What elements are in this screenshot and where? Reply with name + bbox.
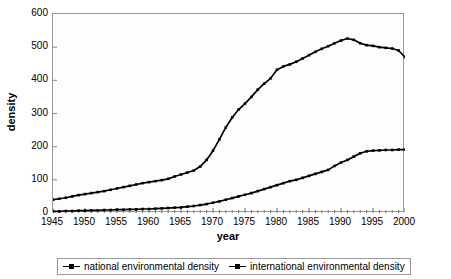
legend-item-label: national environmental density xyxy=(84,261,219,272)
y-tick-label: 600 xyxy=(6,8,48,18)
x-tick-label: 2000 xyxy=(384,216,424,227)
data-point xyxy=(250,96,253,99)
data-point xyxy=(71,195,74,198)
data-point xyxy=(346,159,349,162)
data-point xyxy=(109,188,112,191)
data-point xyxy=(314,173,317,176)
data-point xyxy=(122,186,125,189)
data-point xyxy=(109,209,112,212)
data-point xyxy=(129,208,132,211)
data-point xyxy=(372,149,375,152)
data-point xyxy=(199,165,202,168)
plot-svg xyxy=(53,14,405,213)
data-point xyxy=(359,152,362,155)
data-point xyxy=(53,198,54,201)
data-point xyxy=(193,205,196,208)
legend-item[interactable]: international environmental density xyxy=(229,261,405,272)
data-point xyxy=(263,82,266,85)
data-point xyxy=(199,204,202,207)
data-point xyxy=(186,205,189,208)
data-point xyxy=(372,45,375,48)
data-point xyxy=(385,47,388,50)
series-line xyxy=(53,39,405,200)
data-point xyxy=(327,45,330,48)
data-point xyxy=(257,88,260,91)
data-point xyxy=(340,161,343,164)
data-point xyxy=(225,126,228,129)
data-point xyxy=(295,60,298,63)
data-point xyxy=(84,193,87,196)
legend-item[interactable]: national environmental density xyxy=(63,261,219,272)
data-point xyxy=(58,210,61,213)
data-point xyxy=(218,200,221,203)
plot-area xyxy=(52,13,404,212)
data-point xyxy=(308,175,311,178)
data-point xyxy=(321,48,324,51)
x-axis: 1945195019551960196519701975198019851990… xyxy=(0,216,451,230)
chart-legend: national environmental densityinternatio… xyxy=(57,258,411,275)
legend-line-marker-icon xyxy=(229,262,246,271)
data-point xyxy=(154,207,157,210)
y-tick-label: 100 xyxy=(6,174,48,184)
data-point xyxy=(90,209,93,212)
data-point xyxy=(391,47,394,50)
data-point xyxy=(289,63,292,66)
data-point xyxy=(97,191,100,194)
data-point xyxy=(84,209,87,212)
data-point xyxy=(282,182,285,185)
data-point xyxy=(301,177,304,180)
data-point xyxy=(186,171,189,174)
data-point xyxy=(385,149,388,152)
data-point xyxy=(193,169,196,172)
data-point xyxy=(148,208,151,211)
data-point xyxy=(282,65,285,68)
data-point xyxy=(167,207,170,210)
data-point xyxy=(321,171,324,174)
chart-container: 6005004003002001000 density 194519501955… xyxy=(0,0,451,279)
data-point xyxy=(135,183,138,186)
data-point xyxy=(180,206,183,209)
data-point xyxy=(289,180,292,183)
data-point xyxy=(173,206,176,209)
data-point xyxy=(218,138,221,141)
data-point xyxy=(365,150,368,153)
data-point xyxy=(333,165,336,168)
data-point xyxy=(269,77,272,80)
y-tick-label: 500 xyxy=(6,41,48,51)
x-axis-title: year xyxy=(52,230,404,242)
data-point xyxy=(340,39,343,42)
data-point xyxy=(397,49,400,52)
data-point xyxy=(250,192,253,195)
data-point xyxy=(65,210,68,213)
data-point xyxy=(404,148,405,151)
data-point xyxy=(154,180,157,183)
data-point xyxy=(353,39,356,42)
series-line xyxy=(53,150,405,212)
data-point xyxy=(237,195,240,198)
data-point xyxy=(71,210,74,213)
data-point xyxy=(148,181,151,184)
data-point xyxy=(129,185,132,188)
data-point xyxy=(180,173,183,176)
y-axis-title: density xyxy=(5,80,17,144)
data-point xyxy=(225,198,228,201)
data-point xyxy=(333,42,336,45)
data-point xyxy=(378,46,381,49)
data-point xyxy=(205,203,208,206)
data-point xyxy=(65,196,68,199)
data-point xyxy=(103,190,106,193)
data-point xyxy=(295,179,298,182)
data-point xyxy=(301,57,304,60)
data-point xyxy=(308,54,311,57)
data-point xyxy=(346,37,349,40)
data-point xyxy=(365,44,368,47)
data-point xyxy=(391,149,394,152)
data-point xyxy=(116,187,119,190)
data-point xyxy=(77,194,80,197)
data-point xyxy=(103,209,106,212)
data-point xyxy=(53,210,54,213)
data-point xyxy=(327,169,330,172)
data-point xyxy=(404,56,405,59)
data-point xyxy=(276,68,279,71)
data-point xyxy=(378,149,381,152)
